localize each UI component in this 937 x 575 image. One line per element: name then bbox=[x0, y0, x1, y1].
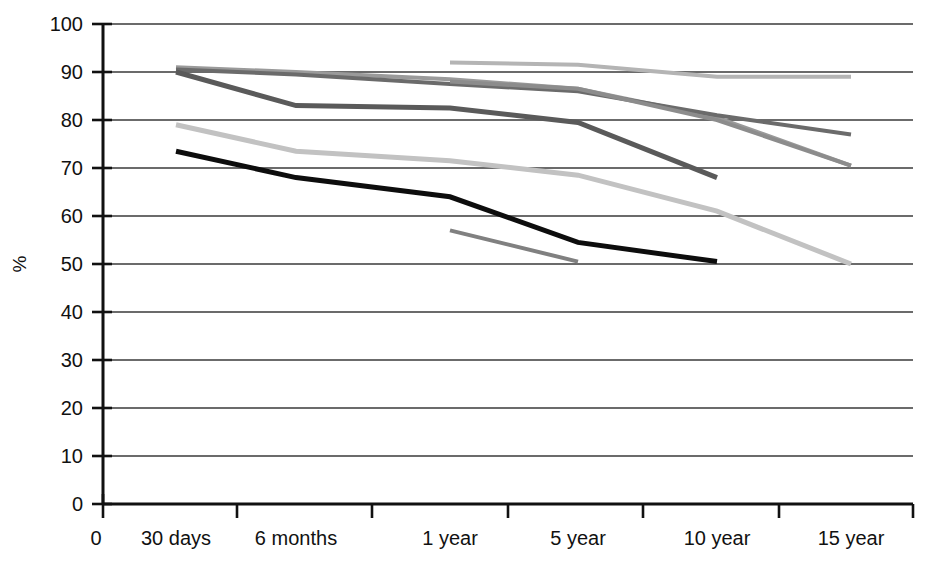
x-origin-label: 0 bbox=[90, 527, 101, 549]
y-axis-title: % bbox=[9, 255, 30, 272]
y-tick-label: 40 bbox=[61, 301, 83, 323]
y-tick-label: 20 bbox=[61, 397, 83, 419]
y-tick-label: 60 bbox=[61, 205, 83, 227]
x-tick-label-10-year: 10 year bbox=[684, 527, 751, 549]
y-tick-label: 100 bbox=[50, 13, 83, 35]
x-tick-label-15-year: 15 year bbox=[818, 527, 885, 549]
y-tick-label: 30 bbox=[61, 349, 83, 371]
y-tick-label: 80 bbox=[61, 109, 83, 131]
y-tick-label: 50 bbox=[61, 253, 83, 275]
x-tick-label-30-days: 30 days bbox=[141, 527, 211, 549]
chart-canvas: 0102030405060708090100 30 days6 months1 … bbox=[0, 0, 937, 575]
y-tick-label: 0 bbox=[72, 493, 83, 515]
x-tick-label-1-year: 1 year bbox=[422, 527, 478, 549]
line-chart: 0102030405060708090100 30 days6 months1 … bbox=[0, 0, 937, 575]
y-tick-label: 90 bbox=[61, 61, 83, 83]
x-tick-label-6-months: 6 months bbox=[255, 527, 337, 549]
y-tick-label: 10 bbox=[61, 445, 83, 467]
x-tick-label-5-year: 5 year bbox=[550, 527, 606, 549]
y-tick-label: 70 bbox=[61, 157, 83, 179]
